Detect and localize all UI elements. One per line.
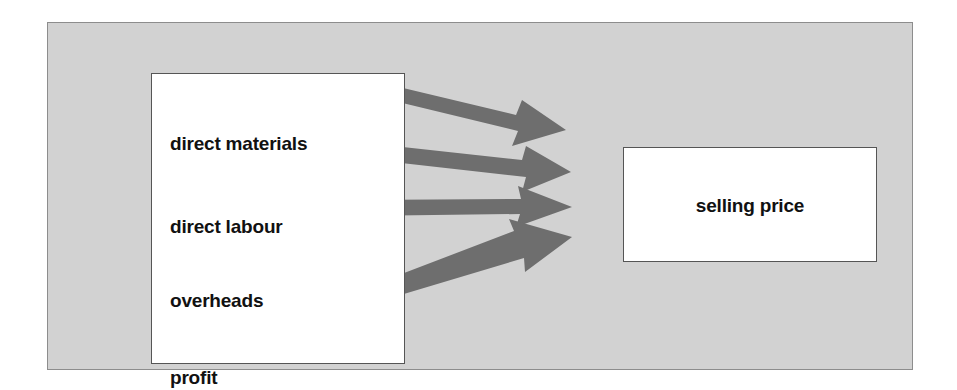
- item-direct-labour: direct labour: [170, 216, 282, 238]
- item-direct-materials: direct materials: [170, 133, 307, 155]
- item-overheads: overheads: [170, 290, 263, 312]
- selling-price-box: selling price: [623, 147, 877, 262]
- selling-price-label: selling price: [624, 195, 876, 217]
- item-profit: profit: [170, 367, 217, 389]
- diagram-canvas: direct materials direct labour overheads…: [0, 0, 957, 390]
- cost-components-box: direct materials direct labour overheads…: [151, 73, 405, 364]
- diagram-frame: direct materials direct labour overheads…: [47, 22, 913, 370]
